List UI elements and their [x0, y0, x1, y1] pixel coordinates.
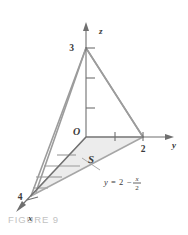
equation-lhs: y: [103, 177, 108, 187]
origin-label: O: [73, 126, 80, 137]
equation-equals: =: [111, 177, 116, 187]
edge-apex-to-y-dup: [86, 48, 143, 137]
boundary-equation: y = 2 − x 2: [103, 175, 141, 192]
equation-constant: 2: [119, 177, 123, 187]
y-axis-label: y: [171, 140, 177, 150]
figure-container: z y x O 3 2 4 S y = 2 − x 2 FIGURE 9: [0, 0, 188, 235]
z-intercept-label: 3: [69, 43, 74, 53]
z-axis-arrowhead: [83, 22, 89, 31]
z-axis-label: z: [98, 26, 103, 36]
tetrahedron-diagram: z y x O 3 2 4 S y = 2 − x 2: [0, 0, 188, 235]
x-intercept-label: 4: [18, 192, 23, 202]
y-intercept-label: 2: [141, 144, 146, 154]
equation-numerator: x: [134, 175, 139, 183]
region-s-label: S: [88, 153, 94, 165]
equation-minus: −: [127, 177, 132, 187]
equation-denominator: 2: [135, 184, 139, 192]
figure-caption: FIGURE 9: [8, 214, 59, 225]
